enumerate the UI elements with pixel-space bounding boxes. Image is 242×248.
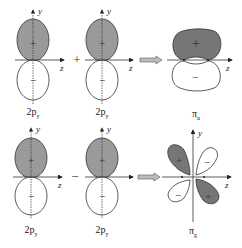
row2-b-label: 2py: [96, 224, 109, 237]
row2-a-label: 2py: [25, 224, 38, 237]
pi-g-sign-upper-left: +: [176, 154, 182, 166]
pi-u-label: πu: [192, 108, 200, 121]
pi-g-sign-lower-right: +: [205, 190, 211, 202]
row2-b-lower-sign: −: [99, 190, 105, 202]
row1-b-label: 2py: [96, 106, 109, 119]
row2-a-lower-sign: −: [28, 190, 34, 202]
row1-a-y-axis-label: y: [38, 6, 42, 16]
row2-b-y-axis-label: y: [107, 124, 111, 134]
pi-u-upper-sign: +: [192, 36, 200, 52]
row2-b-upper-sign: +: [99, 154, 105, 166]
pi-u-lower-sign: −: [192, 71, 198, 83]
row1-a-label: 2py: [27, 106, 40, 119]
row1-orbital-a: [15, 10, 64, 104]
row2-arrow: [138, 173, 160, 181]
row1-arrow: [140, 56, 162, 64]
pi-g-y-axis-label: y: [198, 128, 202, 138]
row2-a-z-axis-label: z: [58, 180, 62, 190]
pi-u-z-axis-label: z: [226, 63, 230, 73]
pi-g-sign-upper-right: −: [204, 156, 210, 168]
row1-a-lower-sign: −: [30, 74, 36, 86]
row1-b-upper-sign: +: [99, 37, 105, 49]
row2-orbital-a: [13, 128, 62, 218]
row1-a-upper-sign: +: [30, 37, 36, 49]
row1-b-y-axis-label: y: [107, 6, 111, 16]
row1-a-z-axis-label: z: [60, 63, 64, 73]
row1-b-lower-sign: −: [99, 74, 105, 86]
pi-g-sign-lower-left: −: [175, 189, 181, 201]
pi-g-label: πg: [189, 225, 197, 238]
row2-pi-g: [162, 130, 231, 222]
row1-operator: +: [73, 52, 80, 68]
row2-a-upper-sign: +: [28, 154, 34, 166]
row1-orbital-b: [85, 10, 133, 104]
pi-g-z-axis-label: z: [225, 180, 229, 190]
row2-orbital-b: [85, 128, 133, 218]
row1-b-z-axis-label: z: [129, 63, 133, 73]
row2-operator: −: [71, 169, 78, 185]
row2-a-y-axis-label: y: [36, 124, 40, 134]
